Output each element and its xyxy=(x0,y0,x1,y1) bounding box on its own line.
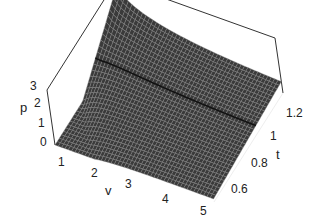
t-tick-1: 1 xyxy=(270,130,277,142)
p-tick-3: 3 xyxy=(30,80,37,92)
surface-mesh xyxy=(55,0,281,199)
p-axis-label: p xyxy=(20,101,27,114)
p-tick-2: 2 xyxy=(34,97,41,109)
t-axis-label: t xyxy=(276,148,280,161)
v-tick-2: 2 xyxy=(91,167,98,179)
p-tick-1: 1 xyxy=(38,117,45,129)
surface-plot xyxy=(0,0,317,224)
v-tick-4: 4 xyxy=(162,193,169,205)
p-tick-0: 0 xyxy=(40,136,47,148)
v-tick-1: 1 xyxy=(58,156,65,168)
v-tick-5: 5 xyxy=(200,205,207,217)
v-axis-label: v xyxy=(105,184,112,197)
t-tick-0.6: 0.6 xyxy=(231,183,248,195)
v-tick-3: 3 xyxy=(125,178,132,190)
t-tick-0.8: 0.8 xyxy=(251,157,268,169)
t-tick-1.2: 1.2 xyxy=(286,107,303,119)
